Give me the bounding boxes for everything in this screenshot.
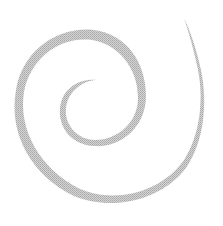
spiral-stroke	[14, 18, 204, 203]
spiral-icon	[0, 0, 223, 226]
spiral-graphic	[0, 0, 223, 226]
